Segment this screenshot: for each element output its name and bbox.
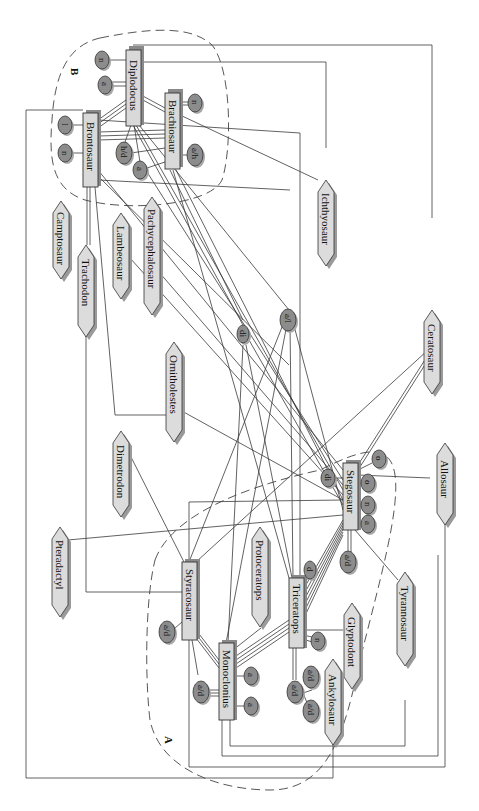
region-b-label: B <box>69 68 81 76</box>
node-protoceratops[interactable]: Protoceratops <box>252 527 271 630</box>
attr-al-mid[interactable]: a/l <box>280 309 298 333</box>
node-label: Glyptodont <box>346 617 358 667</box>
hexagon-nodes: Camptosaur Trachodon Lambeosaur Pachycep… <box>52 180 456 748</box>
attribute-ellipses: n a l n n a/h h/d a di a/l di o o n a a/… <box>58 51 388 724</box>
entity-label: Monoclonius <box>221 650 233 708</box>
attr-diplodocus-a[interactable]: a <box>98 76 114 96</box>
attr-diplodocus-n[interactable]: n <box>95 51 111 71</box>
svg-text:di: di <box>238 330 248 338</box>
entity-label: Brontosaur <box>85 122 97 171</box>
entity-monoclonius[interactable]: Monoclonius <box>219 640 237 720</box>
node-label: Allosaur <box>439 460 451 498</box>
entity-label: Styracosaur <box>184 569 196 621</box>
node-dimetrodon[interactable]: Dimetrodon <box>113 431 132 520</box>
svg-text:n: n <box>190 100 200 105</box>
attr-b-a[interactable]: a <box>133 161 149 181</box>
attr-triceratops-ad3[interactable]: a/d <box>303 700 321 724</box>
attr-stegosaur-a[interactable]: a <box>361 515 377 535</box>
node-ankylosaur[interactable]: Ankylosaur <box>325 659 344 748</box>
node-label: Ankylosaur <box>327 674 339 726</box>
svg-text:a/h: a/h <box>190 148 200 159</box>
attr-triceratops-ad2[interactable]: a/d <box>303 666 321 690</box>
node-pachycephalosaur[interactable]: Pachycephalosaur <box>144 197 163 318</box>
attr-brontosaur-n[interactable]: n <box>58 144 74 164</box>
svg-text:n: n <box>313 638 323 643</box>
attr-stegosaur-o1[interactable]: o <box>372 450 388 470</box>
attr-monoclonius-a1[interactable]: a <box>244 667 260 687</box>
svg-text:a: a <box>135 167 145 171</box>
entity-label: Diplodocus <box>128 60 140 111</box>
node-label: Ornitholestes <box>168 355 180 414</box>
svg-text:a/d: a/d <box>196 685 206 696</box>
entity-label: Stegosaur <box>345 470 357 514</box>
attr-styracosaur-ad[interactable]: a/d <box>159 621 177 645</box>
node-allosaur[interactable]: Allosaur <box>437 443 456 528</box>
attr-brachiosaur-n[interactable]: n <box>188 94 204 114</box>
node-trachodon[interactable]: Trachodon <box>78 245 97 340</box>
node-label: Ceratosaur <box>426 324 438 372</box>
attr-stegosaur-n[interactable]: n <box>361 496 377 516</box>
svg-text:o: o <box>363 480 373 485</box>
svg-text:n: n <box>363 502 373 507</box>
node-lambeosaur[interactable]: Lambeosaur <box>113 213 132 302</box>
entity-stegosaur[interactable]: Stegosaur <box>343 460 361 530</box>
svg-text:a/d: a/d <box>306 704 316 715</box>
svg-text:n: n <box>60 151 70 156</box>
node-ichthyosaur[interactable]: Ichthyosaur <box>318 180 337 269</box>
entity-brachiosaur[interactable]: Brachiosaur <box>165 89 183 169</box>
node-ornitholestes[interactable]: Ornitholestes <box>166 342 185 445</box>
entity-styracosaur[interactable]: Styracosaur <box>182 559 200 640</box>
svg-text:d: d <box>305 567 315 572</box>
attr-triceratops-ad1[interactable]: a/d <box>287 681 305 705</box>
node-camptosaur[interactable]: Camptosaur <box>53 201 72 282</box>
node-label: Pachycephalosaur <box>146 209 158 289</box>
svg-text:a: a <box>363 521 373 525</box>
entity-triceratops[interactable]: Triceratops <box>289 575 307 648</box>
node-label: Camptosaur <box>55 212 67 265</box>
svg-text:di: di <box>323 474 333 482</box>
node-glyptodont[interactable]: Glyptodont <box>344 603 363 692</box>
svg-text:a/d: a/d <box>343 555 353 566</box>
node-pteradactyl[interactable]: Pteradactyl <box>52 527 71 620</box>
svg-text:a: a <box>246 673 256 677</box>
node-label: Dimetrodon <box>115 445 127 499</box>
attr-brontosaur-l[interactable]: l <box>58 116 74 136</box>
attr-monoclonius-a2[interactable]: a <box>244 697 260 717</box>
node-ceratosaur[interactable]: Ceratosaur <box>424 310 443 397</box>
entity-label: Brachiosaur <box>167 100 179 153</box>
node-label: Lambeosaur <box>115 226 127 281</box>
svg-text:a: a <box>246 703 256 707</box>
node-label: Ichthyosaur <box>320 193 332 245</box>
svg-text:n: n <box>97 58 107 63</box>
attr-stegosaur-o2[interactable]: o <box>361 474 377 494</box>
entity-diplodocus[interactable]: Diplodocus <box>126 46 144 126</box>
attr-hd[interactable]: h/d <box>116 142 134 166</box>
node-label: Tyrannosaur <box>399 586 411 641</box>
attr-triceratops-n[interactable]: n <box>311 632 327 652</box>
attr-stegosaur-ad[interactable]: a/d <box>340 551 358 575</box>
svg-text:a/d: a/d <box>162 625 172 636</box>
svg-text:a/d: a/d <box>290 685 300 696</box>
dinosaur-relationship-diagram: B A Camptosaur Trachodon Lambeosaur Pach… <box>0 0 479 811</box>
svg-text:a/d: a/d <box>306 670 316 681</box>
svg-text:a/l: a/l <box>283 314 293 323</box>
attr-di-mid[interactable]: di <box>237 325 251 345</box>
node-label: Trachodon <box>80 259 92 307</box>
svg-text:o: o <box>374 456 384 461</box>
node-tyrannosaur[interactable]: Tyrannosaur <box>397 572 416 669</box>
region-a-label: A <box>163 736 175 744</box>
node-label: Protoceratops <box>254 540 266 600</box>
entity-brontosaur[interactable]: Brontosaur <box>83 110 101 187</box>
svg-text:a: a <box>100 82 110 86</box>
node-label: Pteradactyl <box>54 540 66 589</box>
entity-label: Triceratops <box>291 584 303 634</box>
attr-stegosaur-di[interactable]: di <box>321 469 337 489</box>
svg-text:h/d: h/d <box>119 146 129 158</box>
attr-monoclonius-ad[interactable]: a/d <box>193 681 211 705</box>
attr-brachiosaur-ah[interactable]: a/h <box>187 144 205 168</box>
